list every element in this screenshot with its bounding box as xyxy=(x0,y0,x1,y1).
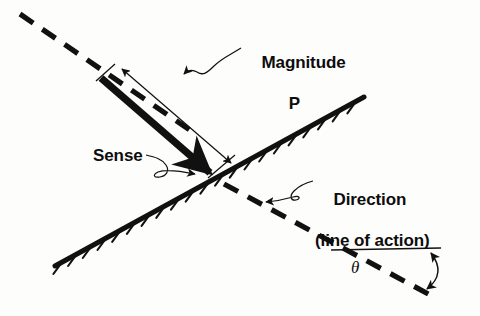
direction-label: Direction (line of action) xyxy=(315,170,430,291)
direction-sublabel-text: (line of action) xyxy=(315,231,430,251)
magnitude-leader-line xyxy=(184,48,241,74)
theta-label: θ xyxy=(351,258,359,278)
sense-label: Sense xyxy=(93,146,143,166)
magnitude-label-text: Magnitude xyxy=(262,53,346,72)
direction-leader-line xyxy=(266,181,313,202)
sense-leader-line xyxy=(146,155,195,177)
force-arrowhead xyxy=(196,161,210,173)
direction-label-text: Direction xyxy=(334,190,407,209)
magnitude-symbol-text: P xyxy=(243,94,346,114)
magnitude-label: Magnitude P xyxy=(243,33,346,154)
force-diagram-figure: Magnitude P Sense Direction (line of act… xyxy=(0,0,480,316)
